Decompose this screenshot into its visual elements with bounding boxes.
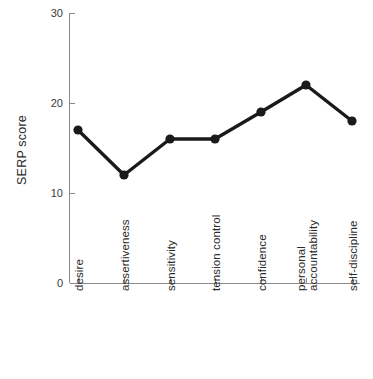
y-tick-label-30: 30 (51, 7, 63, 19)
x-tick-label-sensitivity: sensitivity (165, 240, 177, 291)
data-point-personal-accountability (301, 80, 310, 89)
y-axis-ticks (70, 14, 76, 284)
data-point-assertiveness (119, 170, 128, 179)
x-tick-label-desire: desire (73, 259, 85, 291)
x-tick-label-self-discipline: self-discipline (347, 220, 359, 291)
serp-score-line (78, 85, 352, 175)
data-point-confidence (256, 107, 265, 116)
data-point-sensitivity (165, 134, 174, 143)
data-point-desire (73, 125, 82, 134)
y-tick-label-0: 0 (57, 277, 63, 289)
data-point-tension-control (210, 134, 219, 143)
x-tick-label-assertiveness: assertiveness (119, 219, 131, 291)
y-tick-label-20: 20 (51, 97, 63, 109)
x-tick-label-tension-control: tension control (210, 215, 222, 291)
y-tick-label-10: 10 (51, 187, 63, 199)
x-tick-label-accountability: accountability (307, 220, 319, 291)
y-axis-label: SERP score (15, 115, 29, 185)
x-tick-label-personal: personal (295, 246, 307, 291)
serp-score-line-chart: 30 20 10 0 SERP score desir (0, 0, 373, 379)
chart-canvas: 30 20 10 0 SERP score desir (0, 0, 373, 379)
x-tick-label-confidence: confidence (256, 234, 268, 291)
data-point-self-discipline (347, 116, 356, 125)
